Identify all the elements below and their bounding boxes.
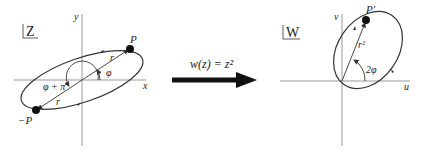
point-neg-p-label: −P xyxy=(18,114,32,126)
point-p-prime xyxy=(362,16,370,24)
angle-label-2phi: 2φ xyxy=(366,64,377,75)
conformal-map-diagram: Z y x P −P r r φ φ + π w(z) = z² W v u P… xyxy=(0,0,424,152)
angle-label-phi: φ xyxy=(106,67,112,78)
radius-label-r-squared: r² xyxy=(358,39,366,50)
x-axis-label: x xyxy=(142,80,148,91)
point-neg-p xyxy=(32,106,40,114)
y-axis-label: y xyxy=(73,11,79,22)
direction-arrow-lower xyxy=(391,69,394,73)
angle-label-phi-plus-pi: φ + π xyxy=(43,81,66,92)
angle-arc-2phi xyxy=(354,60,365,81)
w-plane-label: W xyxy=(286,25,300,40)
radius-label-lower: r xyxy=(56,96,60,107)
mapping-function-label: w(z) = z² xyxy=(190,57,233,71)
mapping: w(z) = z² xyxy=(172,57,257,88)
z-plane-label: Z xyxy=(26,24,35,39)
w-plane: W v u P′ r² 2φ xyxy=(280,0,417,146)
point-p-label: P xyxy=(129,33,137,45)
direction-arrow-upper xyxy=(353,26,356,30)
v-axis-label: v xyxy=(334,11,339,22)
radius-to-p-prime xyxy=(342,23,365,81)
z-plane: Z y x P −P r r φ φ + π xyxy=(14,11,150,146)
right-arrow-icon xyxy=(236,72,257,88)
u-axis-label: u xyxy=(404,81,409,92)
point-p-prime-label: P′ xyxy=(365,3,376,15)
point-p xyxy=(126,45,134,53)
radius-label-upper: r xyxy=(110,52,114,63)
